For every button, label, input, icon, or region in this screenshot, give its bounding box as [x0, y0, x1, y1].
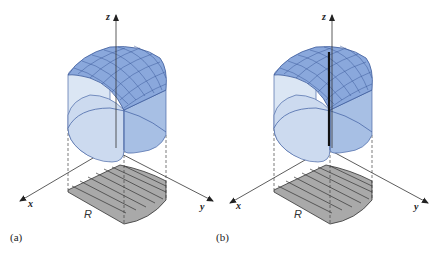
solid-region-a [68, 46, 166, 224]
figure-canvas: z x y R (a) z x y R (b) [0, 0, 447, 257]
region-label: R [84, 208, 92, 220]
x-label: x [235, 200, 241, 211]
z-label: z [321, 11, 326, 22]
panel-a: z x y R (a) [10, 11, 213, 244]
region-label: R [294, 208, 302, 220]
solid-region-b [274, 46, 372, 224]
panel-caption: (a) [10, 231, 23, 244]
x-label: x [27, 198, 33, 209]
y-label: y [413, 201, 419, 212]
z-label: z [105, 11, 110, 22]
y-label: y [199, 201, 205, 212]
panel-caption: (b) [216, 231, 229, 244]
panel-b: z x y R (b) [216, 11, 428, 244]
